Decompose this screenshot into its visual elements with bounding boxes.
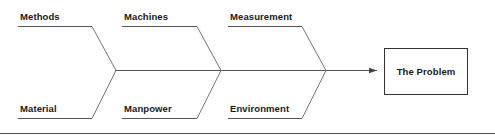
diagonal-machines xyxy=(197,27,221,71)
diagonal-manpower xyxy=(197,71,221,119)
diagonal-material xyxy=(92,71,116,119)
diagonal-methods xyxy=(92,27,116,71)
bone-group-top-machines xyxy=(122,27,221,71)
category-label-material: Material xyxy=(20,104,57,114)
category-label-manpower: Manpower xyxy=(124,104,172,114)
bone-group-top-measurement xyxy=(228,27,326,71)
fishbone-diagram: Methods Machines Measurement Material Ma… xyxy=(0,0,495,139)
diagonal-environment xyxy=(302,71,326,119)
category-label-measurement: Measurement xyxy=(230,12,292,22)
problem-box-label: The Problem xyxy=(397,66,456,77)
category-label-methods: Methods xyxy=(20,12,60,22)
category-label-machines: Machines xyxy=(124,12,168,22)
diagonal-measurement xyxy=(302,27,326,71)
bone-group-top-methods xyxy=(18,27,116,71)
category-label-environment: Environment xyxy=(230,104,289,114)
problem-box: The Problem xyxy=(384,48,468,95)
